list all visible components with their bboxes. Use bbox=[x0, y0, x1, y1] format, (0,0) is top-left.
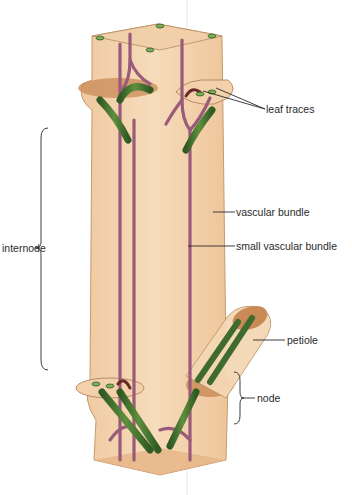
label-petiole: petiole bbox=[287, 334, 318, 346]
label-internode: internode bbox=[2, 242, 46, 254]
label-small-vascular-bundle: small vascular bundle bbox=[236, 240, 337, 252]
label-vascular-bundle: vascular bundle bbox=[236, 206, 310, 218]
stem-diagram: leaf traces vascular bundle small vascul… bbox=[0, 0, 352, 495]
label-leaf-traces: leaf traces bbox=[266, 103, 314, 115]
label-node: node bbox=[257, 392, 280, 404]
